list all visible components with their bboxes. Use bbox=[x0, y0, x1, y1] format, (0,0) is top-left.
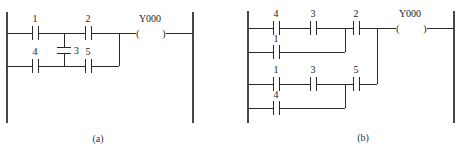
svg-text:): ) bbox=[423, 22, 427, 35]
panel-a: 1 2 3 4 5 ( ) Y000 bbox=[7, 12, 193, 145]
svg-text:1: 1 bbox=[274, 64, 279, 75]
contact-label: 4 bbox=[33, 46, 38, 57]
coil-label: Y000 bbox=[399, 8, 421, 19]
output-coil: ( ) Y000 bbox=[396, 8, 427, 35]
contact-no-1: 1 bbox=[32, 13, 38, 40]
caption-b: (b) bbox=[357, 132, 369, 144]
contact-no-4: 4 bbox=[273, 89, 279, 115]
svg-text:2: 2 bbox=[354, 8, 359, 19]
contact-label: 1 bbox=[33, 13, 38, 24]
svg-text:3: 3 bbox=[311, 8, 316, 19]
svg-text:5: 5 bbox=[354, 64, 359, 75]
contact-no-4: 4 bbox=[273, 8, 279, 35]
contact-label: 2 bbox=[86, 13, 91, 24]
contact-label: 5 bbox=[86, 46, 91, 57]
contact-no-2: 2 bbox=[353, 8, 359, 35]
svg-text:(: ( bbox=[136, 27, 140, 40]
contact-no-3-vertical: 3 bbox=[57, 45, 79, 56]
output-coil: ( ) Y000 bbox=[136, 13, 166, 40]
svg-text:(: ( bbox=[396, 22, 400, 35]
svg-text:4: 4 bbox=[274, 89, 279, 100]
contact-no-1: 1 bbox=[273, 64, 279, 91]
svg-text:): ) bbox=[162, 27, 166, 40]
contact-no-4: 4 bbox=[32, 46, 38, 73]
contact-no-2: 2 bbox=[85, 13, 91, 40]
coil-label: Y000 bbox=[139, 13, 161, 24]
caption-a: (a) bbox=[92, 133, 103, 145]
svg-text:4: 4 bbox=[274, 8, 279, 19]
panel-b: 4 3 2 1 1 3 5 4 ( bbox=[248, 8, 454, 144]
contact-no-3: 3 bbox=[310, 64, 316, 91]
ladder-diagrams: 1 2 3 4 5 ( ) Y000 bbox=[0, 0, 456, 149]
contact-no-5: 5 bbox=[353, 64, 359, 91]
contact-label: 3 bbox=[74, 45, 79, 56]
contact-no-1: 1 bbox=[273, 33, 279, 59]
svg-text:1: 1 bbox=[274, 33, 279, 44]
contact-no-5: 5 bbox=[85, 46, 91, 73]
contact-no-3: 3 bbox=[310, 8, 316, 35]
svg-text:3: 3 bbox=[311, 64, 316, 75]
